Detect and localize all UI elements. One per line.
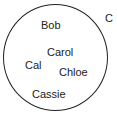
member-label: Bob [41, 20, 61, 31]
member-label: Cassie [32, 89, 66, 100]
set-c-label: C [105, 13, 113, 24]
member-label: Carol [47, 47, 73, 58]
venn-diagram: C Bob Carol Cal Chloe Cassie [0, 0, 117, 116]
member-label: Chloe [59, 67, 88, 78]
member-label: Cal [25, 60, 42, 71]
